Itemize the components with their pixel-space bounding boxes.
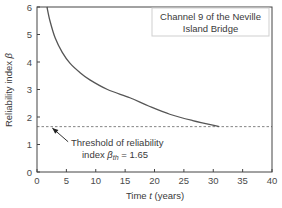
- x-tick-label: 30: [208, 175, 219, 186]
- x-tick-label: 35: [237, 175, 248, 186]
- x-tick-label: 5: [64, 175, 69, 186]
- x-tick-label: 40: [267, 175, 278, 186]
- y-tick-label: 6: [27, 2, 32, 13]
- x-tick-label: 20: [149, 175, 160, 186]
- y-axis-ticks: 0123456: [27, 2, 40, 178]
- x-tick-label: 10: [90, 175, 101, 186]
- reliability-chart: 0510152025303540 0123456 Channel 9 of th…: [0, 0, 282, 208]
- y-tick-label: 5: [27, 29, 32, 40]
- y-tick-label: 1: [27, 139, 32, 150]
- legend-line-2: Island Bridge: [183, 23, 238, 34]
- annotation-line-1: Threshold of reliability: [71, 137, 164, 148]
- legend-line-1: Channel 9 of the Neville: [160, 11, 261, 22]
- x-tick-label: 15: [120, 175, 131, 186]
- y-tick-label: 4: [27, 57, 32, 68]
- y-axis-title: Reliability index β: [3, 52, 14, 127]
- threshold-annotation: Threshold of reliability index βth = 1.6…: [52, 128, 163, 161]
- x-tick-label: 0: [34, 175, 39, 186]
- y-tick-label: 3: [27, 84, 32, 95]
- y-tick-label: 2: [27, 112, 32, 123]
- x-tick-label: 25: [179, 175, 190, 186]
- y-tick-label: 0: [27, 167, 32, 178]
- annotation-line-2: index βth = 1.65: [82, 149, 148, 161]
- legend: Channel 9 of the Neville Island Bridge: [152, 8, 269, 36]
- x-axis-title: Time t (years): [126, 190, 184, 201]
